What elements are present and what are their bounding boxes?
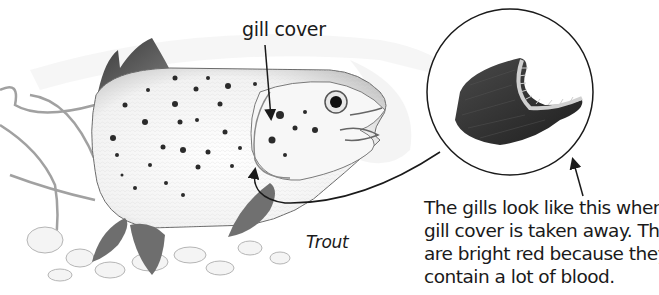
- trout-gill-diagram: gill cover Trout The gills look like thi…: [0, 0, 659, 295]
- pelvic-fin: [92, 218, 127, 262]
- species-label: Trout: [306, 232, 348, 252]
- caption-line: are bright red because they: [424, 242, 659, 265]
- caption-line: contain a lot of blood.: [424, 265, 659, 288]
- gill-cover-label: gill cover: [242, 18, 326, 40]
- caption: The gills look like this when the gill c…: [424, 196, 659, 288]
- weeds: [0, 87, 95, 245]
- caption-arrow: [573, 160, 583, 196]
- caption-line: gill cover is taken away. They: [424, 219, 659, 242]
- caption-line: The gills look like this when the: [424, 196, 659, 219]
